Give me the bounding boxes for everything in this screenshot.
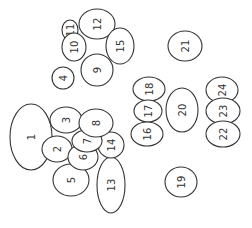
node-label: 7	[82, 138, 93, 144]
node-4: 4	[52, 67, 74, 89]
node-label: 2	[52, 146, 63, 152]
node-label: 13	[106, 179, 117, 192]
node-16: 16	[131, 122, 163, 146]
node-15: 15	[106, 28, 134, 64]
node-10: 10	[62, 33, 86, 61]
node-label: 18	[144, 83, 155, 96]
node-9: 9	[81, 54, 113, 86]
node-label: 20	[177, 104, 188, 117]
node-label: 12	[92, 18, 103, 31]
node-label: 3	[61, 117, 72, 123]
node-label: 22	[218, 128, 229, 141]
node-label: 10	[69, 41, 80, 54]
node-3: 3	[50, 107, 82, 133]
node-22: 22	[206, 121, 240, 147]
ellipse-diagram: 141110121593251314678211817162024232219	[0, 0, 252, 228]
node-13: 13	[97, 157, 125, 213]
diagram-canvas: 141110121593251314678211817162024232219	[0, 0, 252, 228]
node-label: 8	[91, 120, 102, 126]
node-label: 19	[176, 176, 187, 189]
node-21: 21	[168, 31, 202, 61]
node-label: 21	[180, 40, 191, 53]
node-label: 17	[143, 105, 154, 118]
node-1: 1	[10, 104, 52, 170]
node-19: 19	[165, 167, 197, 197]
node-label: 15	[115, 40, 126, 53]
node-17: 17	[134, 100, 162, 122]
node-label: 1	[26, 134, 37, 140]
node-label: 5	[66, 177, 77, 183]
node-label: 23	[218, 105, 229, 118]
node-label: 9	[92, 67, 103, 73]
node-23: 23	[206, 98, 240, 124]
node-label: 16	[142, 128, 153, 141]
node-label: 14	[106, 139, 117, 152]
node-label: 6	[78, 154, 89, 160]
node-18: 18	[133, 77, 165, 101]
node-label: 24	[217, 84, 228, 97]
node-20: 20	[166, 88, 198, 132]
node-8: 8	[79, 109, 113, 137]
node-label: 4	[58, 75, 69, 81]
